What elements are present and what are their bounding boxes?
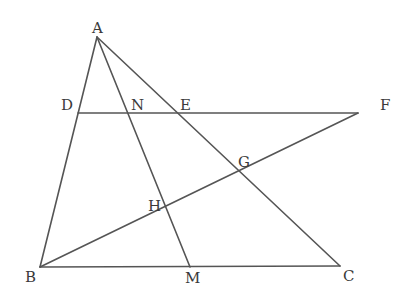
segments — [40, 37, 358, 267]
label-e: E — [180, 96, 191, 114]
label-b: B — [25, 268, 36, 286]
label-h: H — [148, 197, 161, 215]
label-m: M — [185, 269, 200, 287]
geometry-diagram: A B C D E F G H M N — [0, 0, 410, 303]
label-n: N — [131, 96, 144, 114]
label-g: G — [238, 153, 250, 171]
point-labels: A B C D E F G H M N — [25, 19, 390, 287]
label-a: A — [91, 19, 103, 37]
label-c: C — [343, 267, 354, 285]
segment-ac — [97, 37, 340, 266]
segment-bf — [40, 113, 358, 267]
segment-ab — [40, 37, 97, 267]
label-d: D — [61, 96, 73, 114]
label-f: F — [380, 96, 390, 114]
